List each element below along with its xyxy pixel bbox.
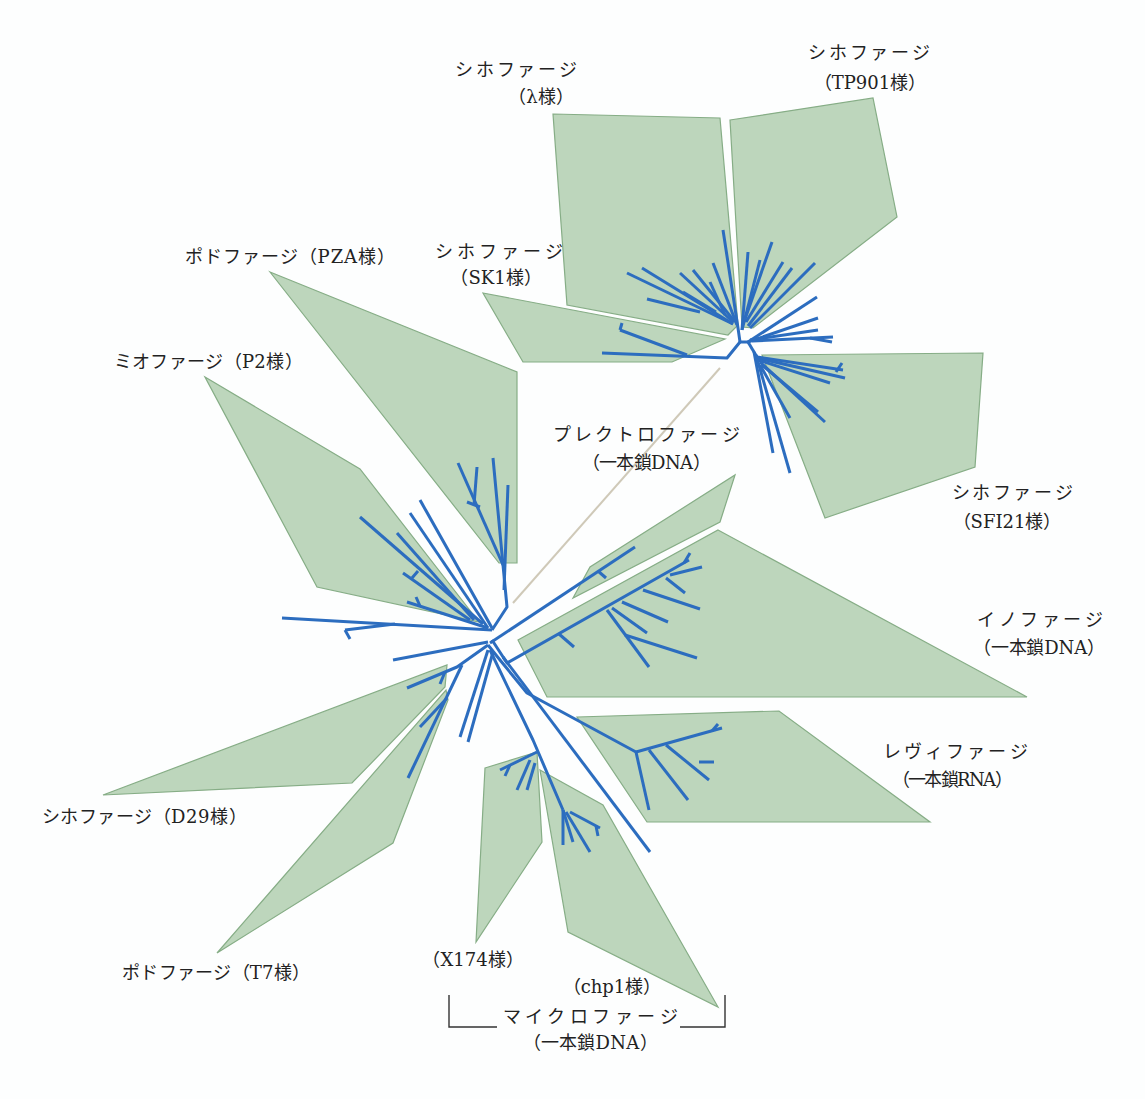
label-ino-line2: （一本鎖DNA）: [973, 637, 1105, 658]
label-sfi21-line2: （SFI21様）: [953, 511, 1062, 532]
label-sk1-line2: （SK1様）: [450, 267, 541, 288]
label-p2: ミオファージ（P2様）: [114, 351, 303, 372]
tree-branch: [596, 826, 598, 836]
diagram-canvas: シホファージ （λ様） シホファージ （TP901様） ポドファージ（PZA様）…: [0, 0, 1145, 1099]
bracket-left: [449, 995, 497, 1027]
label-micro-line2: （一本鎖DNA）: [523, 1032, 658, 1053]
clade-region-sfi21: [762, 353, 983, 518]
clade-region-levi: [577, 711, 930, 822]
label-x174: （X174様）: [422, 949, 523, 970]
label-t7: ポドファージ（T7様）: [122, 962, 310, 983]
label-plectro-line1: プレクトロファージ: [553, 424, 740, 445]
phage-phylogeny-figure: シホファージ （λ様） シホファージ （TP901様） ポドファージ（PZA様）…: [0, 0, 1145, 1099]
tree-branch: [407, 645, 488, 688]
label-sk1-line1: シホファージ: [435, 241, 563, 262]
label-tp901-line2: （TP901様）: [814, 72, 926, 93]
label-chp1: （chp1様）: [563, 976, 662, 997]
tree-branch: [620, 323, 622, 330]
label-lambda-line1: シホファージ: [455, 59, 577, 80]
tree-branch: [393, 642, 488, 660]
label-pza: ポドファージ（PZA様）: [185, 246, 395, 267]
tree-branch: [345, 624, 395, 630]
label-ino-line1: イノファージ: [977, 609, 1103, 630]
clade-region-x174: [476, 752, 542, 942]
label-sfi21-line1: シホファージ: [952, 482, 1073, 503]
label-levi-line1: レヴィファージ: [883, 741, 1028, 762]
label-lambda-line2: （λ様）: [508, 86, 573, 107]
label-levi-line2: （一本鎖RNA）: [892, 769, 1013, 790]
label-plectro-line2: （一本鎖DNA）: [582, 452, 711, 473]
label-tp901-line1: シホファージ: [808, 42, 930, 63]
clade-regions: [103, 98, 1027, 1007]
label-d29: シホファージ（D29様）: [42, 806, 247, 827]
label-micro-line1: マイクロファージ: [503, 1006, 678, 1027]
tree-branch: [345, 630, 350, 639]
